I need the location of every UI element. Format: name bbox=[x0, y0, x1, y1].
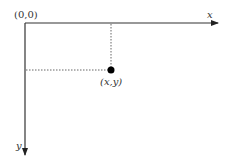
x-axis-label: x bbox=[207, 9, 213, 20]
coordinate-diagram: (0,0) x (x,y) y bbox=[0, 0, 227, 165]
point-marker bbox=[108, 67, 115, 74]
point-label: (x,y) bbox=[100, 76, 122, 87]
origin-label: (0,0) bbox=[14, 9, 38, 20]
y-axis-label: y bbox=[15, 140, 22, 151]
